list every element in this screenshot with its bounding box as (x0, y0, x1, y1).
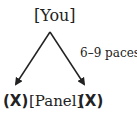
distance-label: 6–9 paces (80, 46, 137, 60)
right-arrow (50, 32, 84, 84)
left-arrow (16, 32, 50, 84)
panel-label: [Panel] (29, 92, 82, 110)
left-marker: (X) (3, 92, 28, 110)
right-marker: (X) (78, 92, 103, 110)
you-label: [You] (34, 6, 76, 25)
